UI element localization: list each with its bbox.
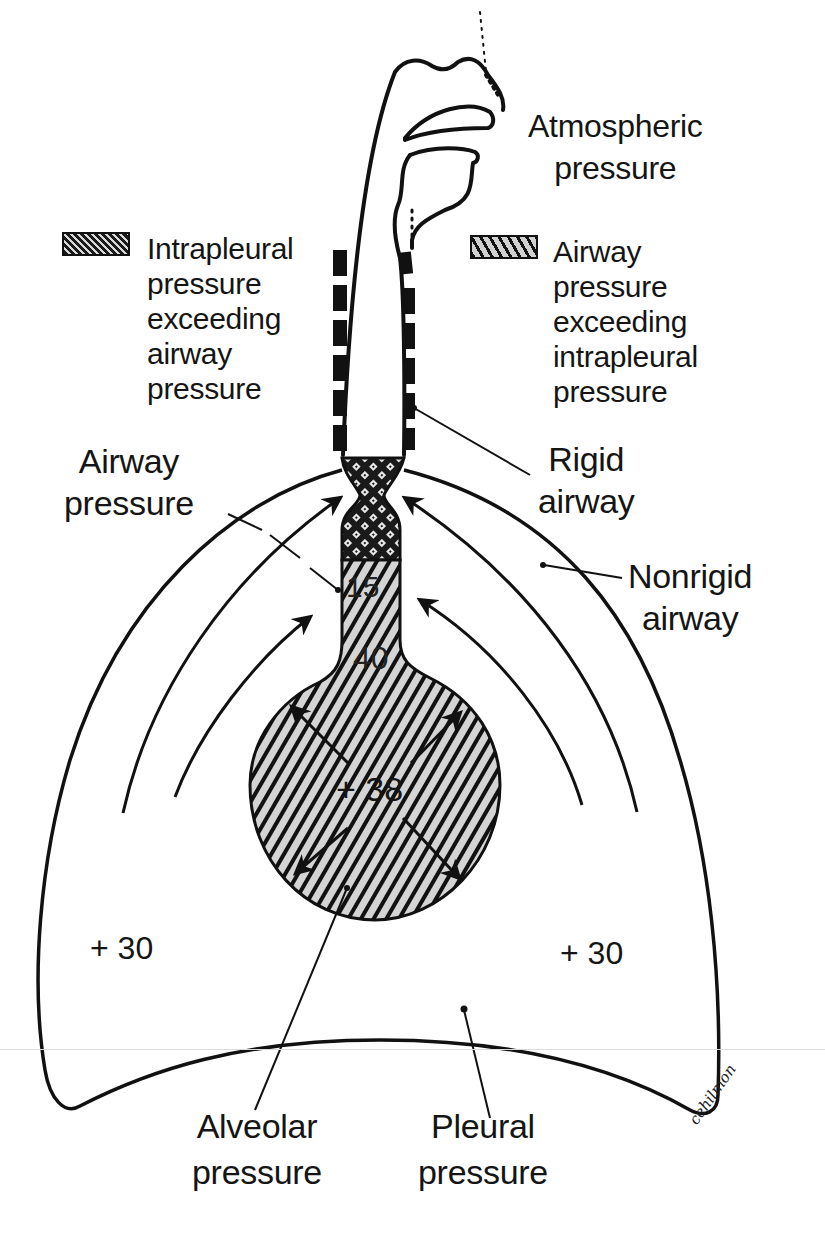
legend-label-airway: Airway pressure exceeding intrapleural p…: [553, 234, 698, 409]
label-atmospheric-pressure: Atmospheric pressure: [528, 105, 703, 189]
compressed-airway-segment: [342, 458, 404, 560]
value-alveolar: + 38: [336, 770, 403, 809]
legend-swatch-diagonal: [470, 235, 538, 259]
value-pleural-left: + 30: [90, 930, 153, 967]
value-airway-lower: 40: [353, 640, 389, 677]
alveolus: [250, 560, 500, 920]
legend-swatch-crosshatch: [62, 232, 130, 256]
label-rigid-airway: Rigid airway: [538, 438, 634, 522]
label-nonrigid-airway: Nonrigid airway: [628, 555, 752, 639]
head-outline: [343, 12, 503, 455]
label-pleural-pressure: Pleural pressure: [418, 1103, 548, 1195]
legend-label-intrapleural: Intrapleural pressure exceeding airway p…: [147, 231, 294, 406]
value-pleural-right: + 30: [560, 935, 623, 972]
value-airway-upper: 15: [346, 570, 379, 604]
label-airway-pressure: Airway pressure: [64, 440, 194, 524]
scan-line: [0, 1049, 825, 1050]
label-alveolar-pressure: Alveolar pressure: [192, 1103, 322, 1195]
